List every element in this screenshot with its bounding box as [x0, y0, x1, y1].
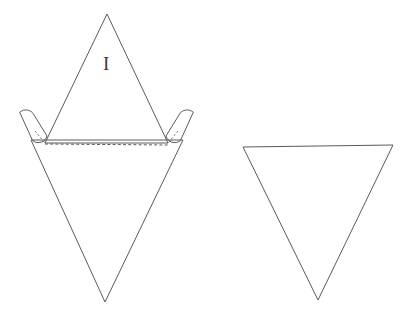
downward-triangle-face: [31, 140, 183, 302]
upward-triangle-face-I: [45, 14, 168, 143]
glue-tab-right-connector-line: [168, 131, 178, 143]
face-label-I: I: [103, 54, 109, 73]
figure-canvas: I: [0, 0, 413, 320]
geometry-figure-svg: [0, 0, 413, 320]
glue-tab-right: [166, 110, 193, 143]
dashed-fold-line: [45, 144, 168, 145]
separate-downward-triangle: [243, 145, 393, 300]
glue-tab-left: [20, 110, 47, 143]
glue-tab-left-connector: [35, 131, 45, 143]
